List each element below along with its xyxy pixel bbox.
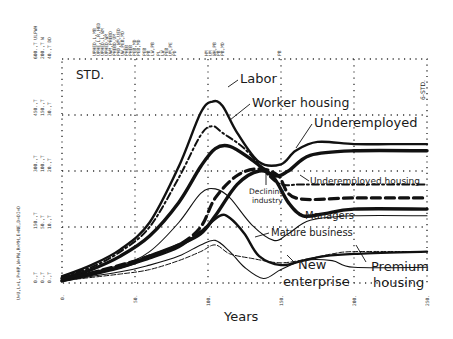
arrow-new-enterprise — [287, 255, 294, 262]
label-premium-2: housing — [373, 275, 424, 290]
system-dynamics-chart: STD. 6-STD. UPHED,L,MBUPHE,L,R,HEDUPHED,… — [0, 0, 453, 339]
top-code: PEB,MD — [136, 39, 141, 56]
x-tick-50: 50. — [133, 295, 138, 303]
y2-tick-3: 150.,T — [40, 99, 45, 116]
label-declining-2: industry — [252, 196, 283, 205]
y-axis-scales: 0.,T 150.,T 300.,T 450.,T 600.,T ULPWH 0… — [16, 26, 52, 300]
y2-tick-2: 100.,T — [40, 155, 45, 172]
top-code: PB,MD — [220, 42, 225, 56]
y3-tick-0: 0.,T — [47, 272, 52, 283]
y2-tick-0: 0.,T — [40, 272, 45, 283]
y1-tick-0: 0.,T — [33, 272, 38, 283]
x-tick-150: 150. — [279, 295, 284, 306]
y1-tick-4: 600.,T ULPWH — [33, 26, 38, 59]
curve-labels: Labor Worker housing Underemployed Under… — [228, 71, 429, 290]
label-new-2: enterprise — [283, 274, 350, 289]
y1-tick-2: 300.,T — [33, 155, 38, 172]
label-declining-1: Declining — [249, 187, 284, 196]
label-managers: Managers — [305, 210, 354, 221]
arrow-underemployed-housing — [300, 175, 309, 181]
x-axis-ticks: 0. 50. 100. 150. 200. 250. — [60, 294, 430, 306]
y2-tick-1: 50.,T — [40, 215, 45, 229]
top-code: PB — [277, 50, 282, 56]
arrow-labor — [228, 80, 238, 87]
label-mature-business: Mature business — [271, 227, 353, 238]
label-labor: Labor — [240, 71, 277, 86]
y2-tick-4: 200.,T W — [40, 37, 45, 59]
y3-tick-3: 30.,T — [47, 102, 52, 116]
top-code: PD — [172, 50, 177, 56]
corner-tag: 6-STD. — [419, 80, 426, 100]
chart-title: STD. — [76, 68, 104, 82]
x-tick-100: 100. — [206, 295, 211, 306]
label-new-1: New — [298, 257, 327, 272]
y-series-legend: U=U,L=L,P=HP,W=PW,R=MH,E=NE,D=DI=D — [16, 206, 21, 300]
label-underemployed-housing: Underemployed housing — [310, 176, 420, 186]
label-underemployed: Underemployed — [314, 115, 418, 130]
x-tick-250: 250. — [425, 295, 430, 306]
x-tick-0: 0. — [60, 294, 65, 300]
arrow-worker-housing — [230, 104, 250, 120]
y3-tick-1: 10.,T — [47, 215, 52, 229]
y3-tick-2: 20.,T — [47, 158, 52, 172]
label-premium-1: Premium — [371, 259, 429, 274]
x-axis-label: Years — [223, 309, 259, 324]
top-code: LW,PB — [150, 42, 155, 56]
top-annotations: UPHED,L,MBUPHE,L,R,HEDUPHED,L,WMUPHED,WM… — [92, 23, 282, 56]
y1-tick-3: 450.,T — [33, 99, 38, 116]
y1-tick-1: 150.,T — [33, 212, 38, 229]
x-tick-200: 200. — [352, 295, 357, 306]
label-worker-housing: Worker housing — [252, 95, 349, 110]
y3-tick-4: 40.,T DD — [47, 37, 52, 59]
